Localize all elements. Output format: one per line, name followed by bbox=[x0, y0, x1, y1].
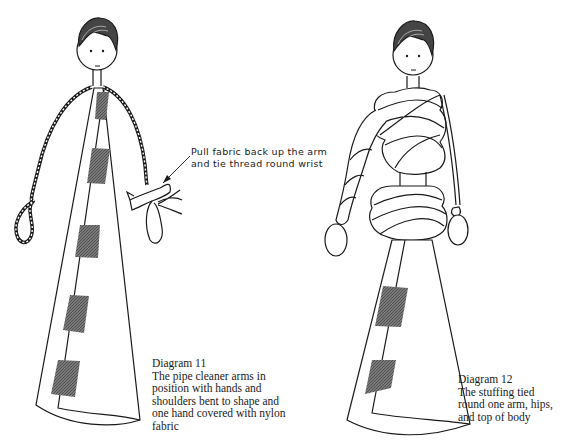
caption-line: The pipe cleaner arms in bbox=[152, 370, 286, 383]
covered-hand-icon bbox=[127, 184, 182, 243]
caption-line: shoulders bent to shape and bbox=[152, 395, 286, 408]
callout-text: Pull fabric back up the arm and tie thre… bbox=[191, 146, 327, 170]
caption-line: position with hands and bbox=[152, 382, 286, 395]
doll-head-icon bbox=[393, 21, 434, 75]
doll-figure-diagram-12 bbox=[325, 21, 470, 435]
caption-diagram-12: Diagram 12 The stuffing tied round one a… bbox=[458, 373, 553, 423]
caption-line: and top of body bbox=[458, 411, 553, 424]
caption-line: fabric bbox=[152, 420, 286, 433]
caption-diagram-11: Diagram 11 The pipe cleaner arms in posi… bbox=[152, 357, 286, 432]
doll-head-icon bbox=[77, 18, 118, 70]
dress-cone bbox=[347, 240, 470, 435]
caption-title: Diagram 12 bbox=[458, 373, 553, 386]
caption-line: one hand covered with nylon bbox=[152, 407, 286, 420]
caption-title: Diagram 11 bbox=[152, 357, 286, 370]
callout-line: Pull fabric back up the arm bbox=[191, 146, 327, 158]
callout-line: and tie thread round wrist bbox=[191, 158, 327, 170]
caption-line: The stuffing tied bbox=[458, 386, 553, 399]
caption-line: round one arm, hips, bbox=[458, 398, 553, 411]
